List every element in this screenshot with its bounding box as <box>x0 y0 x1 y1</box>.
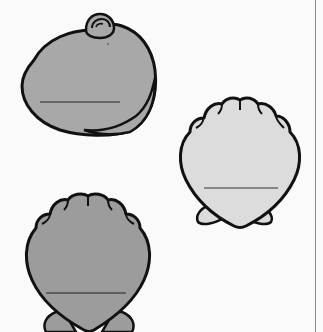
worksheet-page <box>0 0 323 332</box>
clam-shell-icon <box>22 14 156 135</box>
scallop-shell-light-icon <box>180 98 299 228</box>
shell-illustrations <box>0 0 323 332</box>
scallop-shell-dark-icon <box>26 194 149 332</box>
